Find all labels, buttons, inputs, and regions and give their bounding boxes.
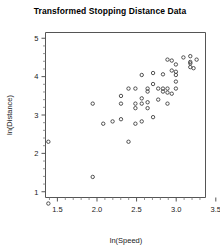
- data-point: [174, 63, 177, 66]
- data-point: [119, 102, 122, 105]
- plot-canvas: 1.52.02.53.03.5 12345 ln(Speed) ln(Dista…: [0, 0, 220, 251]
- data-point: [166, 87, 169, 90]
- y-tick-label: 5: [34, 34, 38, 43]
- data-point: [134, 122, 137, 125]
- data-point: [157, 87, 160, 90]
- data-point: [170, 92, 173, 95]
- y-tick-label: 1: [34, 188, 38, 197]
- data-point: [166, 102, 169, 105]
- data-point: [47, 202, 50, 205]
- data-point: [91, 102, 94, 105]
- data-point: [140, 102, 143, 105]
- data-point: [170, 69, 173, 72]
- data-point: [119, 118, 122, 121]
- data-point: [134, 102, 137, 105]
- x-tick-label: 2.0: [92, 205, 102, 214]
- data-point: [47, 140, 50, 143]
- data-point: [127, 140, 130, 143]
- data-point-series: [47, 54, 199, 205]
- x-axis-title: ln(Speed): [110, 236, 143, 245]
- data-point: [182, 56, 185, 59]
- x-tick-label: 1.5: [52, 205, 62, 214]
- data-point: [146, 106, 149, 109]
- data-point: [140, 120, 143, 123]
- data-point: [111, 120, 114, 123]
- y-tick-label: 4: [34, 72, 38, 81]
- data-point: [151, 82, 154, 85]
- data-point: [119, 94, 122, 97]
- data-point: [134, 87, 137, 90]
- data-point: [151, 115, 154, 118]
- data-point: [140, 97, 143, 100]
- scatter-plot-figure: Transformed Stopping Distance Data 1.52.…: [0, 0, 220, 251]
- y-axis-title: ln(Distance): [5, 94, 14, 135]
- data-point: [166, 58, 169, 61]
- x-tick-label: 2.5: [131, 205, 141, 214]
- data-point: [151, 71, 154, 74]
- x-tick-label: 3.0: [171, 205, 181, 214]
- data-point: [192, 66, 195, 69]
- data-point: [140, 73, 143, 76]
- data-point: [166, 91, 169, 94]
- x-tick-label: 3.5: [211, 205, 220, 214]
- data-point: [189, 54, 192, 57]
- y-tick-label: 3: [34, 111, 38, 120]
- data-point: [127, 87, 130, 90]
- data-point: [134, 106, 137, 109]
- data-point: [91, 175, 94, 178]
- y-tick-label: 2: [34, 149, 38, 158]
- data-point: [146, 101, 149, 104]
- data-point: [161, 73, 164, 76]
- data-point: [102, 122, 105, 125]
- y-axis-tick-labels: 12345: [34, 34, 38, 196]
- data-point: [174, 80, 177, 83]
- data-point: [195, 58, 198, 61]
- data-point: [170, 59, 173, 62]
- data-point: [174, 87, 177, 90]
- x-axis-tick-labels: 1.52.02.53.03.5: [52, 205, 220, 214]
- data-point: [157, 98, 160, 101]
